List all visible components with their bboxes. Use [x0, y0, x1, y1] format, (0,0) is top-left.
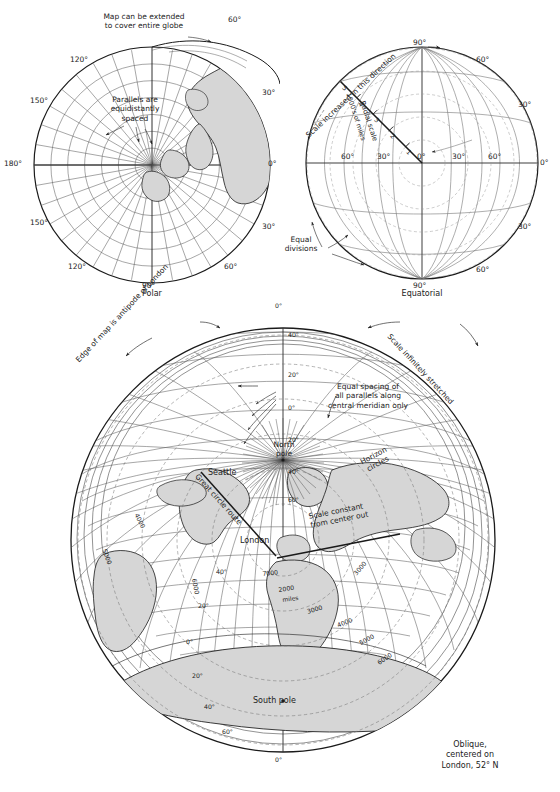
polar-landmasses	[142, 63, 278, 204]
equatorial-eq-label-30-left: 30°	[377, 152, 390, 161]
oblique-cm-0-mid: 0°	[288, 404, 295, 412]
equatorial-label-60-ne: 60°	[476, 55, 489, 64]
oblique-lat-20-lower: 20°	[192, 672, 203, 680]
oblique-panel: Edge of map is antipode of London Scale …	[0, 300, 560, 792]
oblique-cm-0-top: 0°	[275, 302, 282, 310]
oblique-cm-40-s: 40°	[288, 468, 299, 476]
oblique-center-fan-leaders	[244, 392, 276, 444]
polar-parallels-note: Parallels are equidistantly spaced	[96, 95, 174, 123]
oblique-ring-7000: 7000	[262, 568, 278, 577]
polar-meridian-120-nw: 120°	[70, 55, 88, 64]
polar-diagram	[0, 0, 280, 300]
polar-meridian-30-ne: 30°	[262, 88, 275, 97]
oblique-cm-60-s: 60°	[288, 496, 299, 504]
oblique-cm-20-n: 20°	[288, 371, 299, 379]
oblique-cm-20-s: 20°	[288, 436, 299, 444]
oblique-lat-40-left: 40°	[216, 568, 227, 576]
oblique-lat-20-left: 20°	[198, 602, 209, 610]
equatorial-label-30-ne: 30°	[518, 100, 531, 109]
equatorial-panel: Scale increased in this direction Radial…	[280, 0, 560, 300]
oblique-caption: Oblique, centered on London, 52° N	[400, 740, 540, 771]
oblique-diagram	[0, 300, 560, 792]
polar-meridian-0: 0°	[268, 159, 277, 168]
polar-panel: Map can be extended to cover entire glob…	[0, 0, 280, 300]
equatorial-eq-label-60-right: 60°	[488, 152, 501, 161]
land-australia	[411, 528, 456, 561]
polar-meridian-120-sw: 120°	[68, 262, 86, 271]
polar-meridian-180: 180°	[4, 159, 22, 168]
oblique-cm-40-n: 40°	[288, 331, 299, 339]
polar-meridian-60-ne: 60°	[228, 15, 241, 24]
oblique-cm-0-bottom: 0°	[275, 756, 282, 764]
equatorial-eq-label-30-right: 30°	[452, 152, 465, 161]
oblique-lat-60-lower: 60°	[222, 728, 233, 736]
polar-meridian-150-nw: 150°	[30, 96, 48, 105]
equatorial-label-90-top: 90°	[413, 38, 426, 47]
polar-caption: Polar	[112, 289, 192, 299]
equatorial-label-60-se: 60°	[476, 265, 489, 274]
oblique-label-london: London	[240, 536, 269, 546]
equatorial-caption: Equatorial	[382, 289, 462, 299]
oblique-label-south-pole: South pole	[253, 696, 296, 706]
oblique-lat-0-left: 0°	[186, 638, 193, 646]
equatorial-label-30-se: 30°	[518, 222, 531, 231]
oblique-north-pole-dot	[281, 458, 284, 461]
polar-meridian-60-se: 60°	[224, 262, 237, 271]
polar-meridian-150-sw: 150°	[30, 218, 48, 227]
oblique-lat-40-lower: 40°	[204, 703, 215, 711]
polar-meridian-30-se: 30°	[262, 222, 275, 231]
equatorial-eq-label-60-left: 60°	[341, 152, 354, 161]
land-antarctica	[109, 646, 458, 732]
figure-page: Map can be extended to cover entire glob…	[0, 0, 560, 792]
polar-extent-note: Map can be extended to cover entire glob…	[84, 12, 204, 31]
equatorial-equal-divisions-note: Equal divisions	[276, 235, 326, 254]
equatorial-label-0-right: 0°	[540, 158, 549, 167]
equatorial-eq-label-0-center: 0°	[417, 152, 426, 161]
land-europe	[277, 535, 310, 562]
oblique-equal-spacing-note: Equal spacing of all parallels along cen…	[318, 382, 418, 410]
oblique-label-seattle: Seattle	[208, 468, 236, 478]
land-south-america	[93, 551, 156, 652]
